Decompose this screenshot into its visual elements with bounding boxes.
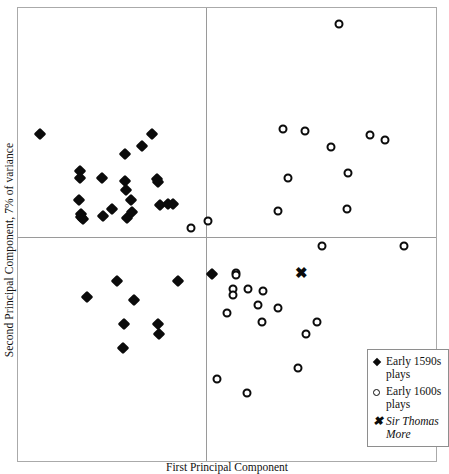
data-point-circle	[274, 304, 283, 313]
data-point-diamond	[146, 128, 159, 141]
data-point-circle	[327, 143, 336, 152]
data-point-circle	[284, 174, 293, 183]
legend-item-sir-thomas-more: ✖ Sir Thomas More	[373, 415, 444, 440]
y-axis-label: Second Principal Component, 7% of varian…	[3, 143, 15, 357]
data-point-circle	[343, 205, 352, 214]
legend-label-sir-thomas-more: Sir Thomas More	[386, 415, 444, 440]
data-point-circle	[366, 131, 375, 140]
data-point-diamond	[206, 268, 219, 281]
data-point-diamond	[172, 275, 185, 288]
data-point-circle	[187, 224, 196, 233]
data-point-circle	[279, 125, 288, 134]
data-point-diamond	[81, 291, 94, 304]
legend-label-early-1590s: Early 1590s plays	[386, 355, 444, 380]
horizontal-axis-line	[18, 237, 436, 238]
data-point-circle	[274, 207, 283, 216]
data-point-diamond	[128, 294, 141, 307]
legend-label-early-1600s: Early 1600s plays	[386, 385, 444, 410]
data-point-diamond	[73, 194, 86, 207]
data-point-diamond	[117, 342, 130, 355]
data-point-circle	[223, 309, 232, 318]
vertical-axis-line	[206, 8, 207, 461]
legend-item-early-1600s: Early 1600s plays	[373, 385, 444, 410]
data-point-circle	[294, 364, 303, 373]
data-point-circle	[344, 169, 353, 178]
plot-area: ✖ Early 1590s plays Early 1600s plays ✖ …	[17, 7, 437, 462]
chart-legend: Early 1590s plays Early 1600s plays ✖ Si…	[367, 349, 449, 447]
data-point-circle	[400, 242, 409, 251]
data-point-circle	[254, 301, 263, 310]
data-point-circle	[258, 318, 267, 327]
x-axis-label: First Principal Component	[17, 461, 437, 474]
data-point-cross: ✖	[294, 266, 308, 280]
data-point-diamond	[111, 275, 124, 288]
data-point-circle	[301, 127, 310, 136]
data-point-circle	[229, 291, 238, 300]
data-point-circle	[381, 136, 390, 145]
data-point-diamond	[34, 128, 47, 141]
data-point-circle	[259, 287, 268, 296]
data-point-circle	[232, 271, 241, 280]
data-point-circle	[204, 217, 213, 226]
data-point-circle	[302, 330, 311, 339]
cross-marker-icon: ✖	[373, 415, 384, 428]
data-point-diamond	[119, 148, 132, 161]
circle-marker-icon	[373, 385, 384, 398]
data-point-circle	[313, 318, 322, 327]
data-point-diamond	[153, 328, 166, 341]
data-point-circle	[318, 242, 327, 251]
data-point-diamond	[136, 140, 149, 153]
data-point-circle	[335, 20, 344, 29]
data-point-circle	[243, 389, 252, 398]
legend-item-early-1590s: Early 1590s plays	[373, 355, 444, 380]
y-axis-label-container: Second Principal Component, 7% of varian…	[0, 110, 18, 390]
diamond-marker-icon	[373, 355, 384, 368]
data-point-circle	[213, 375, 222, 384]
data-point-diamond	[118, 318, 131, 331]
data-point-diamond	[96, 172, 109, 185]
data-point-circle	[244, 285, 253, 294]
